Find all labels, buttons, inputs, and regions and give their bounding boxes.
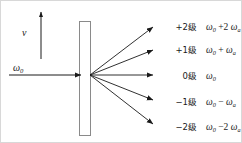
order-frequency: ω0 + ωa	[206, 45, 236, 55]
order-row-minus1: −1级 ω0 − ωa	[165, 95, 236, 107]
order-frequency: ω0 −2 ωa	[206, 122, 241, 132]
diffracted-ray-plus1	[90, 50, 153, 75]
order-row-minus2: −2级 ω0 −2 ωa	[165, 120, 241, 132]
order-row-plus2: +2级 ω0 +2 ωa	[165, 20, 241, 32]
order-label: 0级	[165, 69, 197, 81]
order-label: −1级	[165, 95, 197, 107]
order-label: +2级	[165, 20, 197, 32]
order-frequency: ω0	[206, 71, 216, 81]
acousto-optic-diffraction-diagram: v ω0 +2级 ω0 +2 ωa +1级 ω0 + ωa 0级 ω0 −1级 …	[0, 0, 242, 143]
order-frequency: ω0 − ωa	[206, 97, 236, 107]
order-label: −2级	[165, 120, 197, 132]
order-row-plus1: +1级 ω0 + ωa	[165, 43, 236, 55]
diffracted-ray-plus2	[90, 27, 153, 75]
incident-subscript: 0	[20, 67, 23, 74]
incident-frequency-label: ω0	[13, 63, 23, 73]
velocity-label: v	[22, 28, 26, 38]
order-frequency: ω0 +2 ωa	[206, 22, 241, 32]
diffracted-ray-minus1	[90, 75, 153, 100]
diffracted-ray-minus2	[90, 75, 153, 124]
acousto-optic-cell	[80, 22, 91, 136]
order-label: +1级	[165, 43, 197, 55]
order-row-zero: 0级 ω0	[165, 69, 216, 81]
